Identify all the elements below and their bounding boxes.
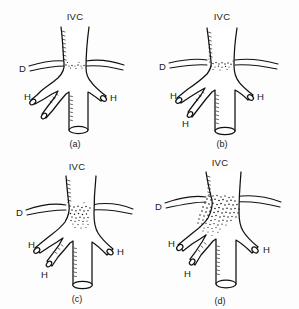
panel-c-distal-lumen bbox=[73, 281, 93, 288]
panel-c-hepatic-label-right: H bbox=[117, 246, 124, 257]
panel-c-caption: (c) bbox=[72, 294, 83, 304]
panel-a-drawing: IVC D bbox=[0, 0, 150, 155]
panel-c-hepatic-lumen-left-lower bbox=[45, 260, 52, 268]
panel-a: IVC D bbox=[0, 0, 150, 155]
panel-d-ivc-label: IVC bbox=[212, 157, 229, 168]
panel-b-caption: (b) bbox=[217, 139, 228, 149]
panel-a-distal-lumen bbox=[69, 126, 88, 133]
figure-container: IVC D bbox=[0, 0, 299, 309]
panel-b-ivc-label: IVC bbox=[214, 11, 231, 22]
panel-c-ivc-label: IVC bbox=[69, 161, 86, 172]
panel-c-hepatic-label-left-lower: H bbox=[41, 269, 48, 280]
panel-b: IVC D bbox=[149, 0, 299, 155]
panel-d-caption: (d) bbox=[215, 296, 226, 306]
panel-a-duodenum-left bbox=[29, 61, 65, 71]
panel-a-hepatic-label-right: H bbox=[110, 92, 117, 103]
panel-b-hepatic-label-left-lower: H bbox=[182, 118, 189, 129]
panel-d-distal-lumen bbox=[216, 280, 236, 288]
panel-b-drawing: IVC D bbox=[149, 0, 299, 155]
panel-d-hepatic-label-left: H bbox=[168, 238, 175, 249]
panel-c-duodenum-label: D bbox=[16, 207, 23, 218]
panel-d: IVC D bbox=[149, 152, 299, 309]
panel-c: IVC D bbox=[0, 152, 150, 309]
panel-a-caption: (a) bbox=[70, 139, 81, 149]
panel-b-distal-lumen bbox=[215, 127, 235, 134]
panel-a-hepatic-label-left: H bbox=[24, 91, 31, 102]
panel-d-duodenum-left bbox=[165, 196, 206, 208]
panel-c-drawing: IVC D bbox=[0, 152, 150, 309]
panel-d-hepatic-label-left-lower: H bbox=[184, 268, 191, 279]
panel-a-duodenum-right bbox=[86, 60, 124, 70]
panel-d-duodenum-right bbox=[235, 196, 281, 207]
panel-d-hepatic-label-right: H bbox=[263, 244, 270, 255]
panel-a-hepatic-lumen-left-lower bbox=[40, 112, 47, 120]
panel-d-drawing: IVC D bbox=[149, 152, 299, 309]
panel-b-hepatic-label-right: H bbox=[257, 91, 264, 102]
panel-c-hepatic-label-left: H bbox=[28, 239, 35, 250]
panel-a-ivc-label: IVC bbox=[67, 11, 84, 22]
panel-b-hepatic-label-left: H bbox=[170, 90, 177, 101]
panel-d-duodenum-label: D bbox=[155, 201, 162, 212]
panel-c-duodenum-left bbox=[26, 204, 66, 215]
panel-b-duodenum-label: D bbox=[159, 61, 166, 72]
panel-b-duodenum-right bbox=[235, 59, 278, 69]
panel-c-duodenum-right bbox=[92, 204, 133, 214]
panel-b-duodenum-left bbox=[169, 59, 207, 68]
panel-a-duodenum-label: D bbox=[19, 63, 26, 74]
